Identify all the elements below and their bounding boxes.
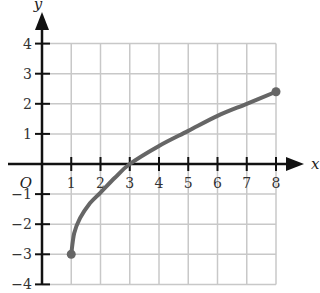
x-axis-label: x	[311, 155, 320, 173]
y-axis-arrow-icon	[35, 12, 49, 30]
x-axis-arrow-icon	[286, 157, 304, 171]
y-tick-label: 1	[23, 126, 32, 142]
origin-label: O	[20, 174, 32, 192]
x-tick-label: 4	[155, 175, 164, 191]
y-tick-label: 4	[23, 36, 32, 52]
y-tick-label: 3	[23, 66, 32, 82]
curve-line	[71, 92, 276, 255]
y-tick-label: −2	[11, 216, 32, 232]
x-tick-label: 1	[67, 175, 76, 191]
x-tick-label: 8	[272, 175, 281, 191]
y-tick-label: 2	[23, 96, 32, 112]
endpoint-marker	[67, 250, 76, 259]
x-tick-label: 6	[213, 175, 222, 191]
x-tick-label: 3	[125, 175, 134, 191]
chart: 123456784321−1−2−3−4Oxy	[0, 0, 320, 293]
data-series	[67, 87, 281, 259]
x-tick-label: 5	[184, 175, 193, 191]
y-tick-label: −3	[11, 246, 32, 262]
y-axis-label: y	[33, 0, 43, 13]
y-tick-label: −4	[11, 276, 32, 292]
endpoint-marker	[272, 87, 281, 96]
x-tick-label: 7	[242, 175, 251, 191]
